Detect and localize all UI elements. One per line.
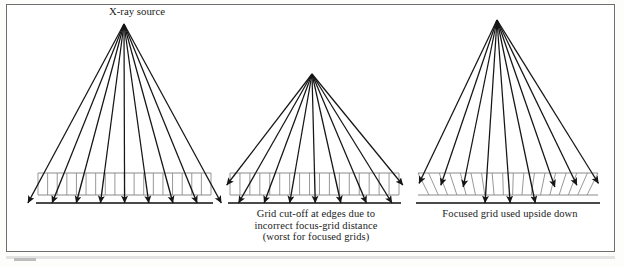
- xray-beam: [84, 24, 124, 173]
- caption-mid-line: Grid cut-off at edges due to: [226, 208, 406, 220]
- grid-septum-inverted: [578, 173, 588, 195]
- xray-beam: [497, 20, 571, 173]
- xray-ray-arrow: [28, 173, 44, 203]
- grid-septum-inverted: [587, 173, 598, 195]
- xray-ray-arrow: [205, 173, 221, 203]
- caption-focused-upside-down: Focused grid used upside down: [412, 208, 608, 220]
- grid-septum-inverted: [450, 173, 457, 195]
- xray-ray-arrow: [354, 173, 367, 203]
- xray-beam: [275, 74, 312, 173]
- figure-canvas: X-ray source Grid cut-off at edges due t…: [0, 0, 624, 267]
- grid-septum-inverted: [559, 173, 566, 195]
- grid-septum-inverted: [418, 173, 429, 195]
- xray-beam: [64, 24, 124, 173]
- grid-septum-inverted: [482, 173, 485, 195]
- xray-ray-arrow: [393, 173, 403, 185]
- xray-ray-arrow: [485, 173, 487, 203]
- xray-ray-arrow: [315, 173, 316, 203]
- xray-beam: [312, 74, 373, 173]
- xray-beam: [497, 20, 508, 173]
- xray-ray-arrow: [334, 173, 341, 203]
- grid-septum-inverted: [503, 173, 504, 195]
- xray-ray-arrow: [419, 173, 424, 183]
- xray-beam: [312, 74, 315, 173]
- xray-beam: [497, 20, 529, 173]
- grid-septum-inverted: [492, 173, 494, 195]
- xray-beam: [424, 20, 497, 173]
- caption-mid-line: (worst for focused grids): [226, 231, 406, 243]
- xray-beam: [104, 24, 124, 173]
- xray-beam: [124, 24, 205, 173]
- xray-ray-arrow: [529, 173, 535, 203]
- xray-beam: [312, 74, 334, 173]
- grid-septum-inverted: [471, 173, 476, 195]
- caption-mid-line: incorrect focus-grid distance: [226, 220, 406, 232]
- xray-beam: [124, 24, 165, 173]
- xray-beam: [312, 74, 354, 173]
- xray-beam: [124, 24, 185, 173]
- caption-right-line: Focused grid used upside down: [412, 208, 608, 220]
- xray-source-label: X-ray source: [62, 5, 212, 17]
- page-edge-mark: [14, 258, 36, 261]
- xray-beam: [497, 20, 592, 173]
- caption-grid-cutoff: Grid cut-off at edges due toincorrect fo…: [226, 208, 406, 243]
- xray-ray-arrow: [508, 173, 510, 203]
- xray-ray-arrow: [227, 173, 236, 185]
- xray-ray-arrow: [290, 173, 295, 203]
- xray-ray-arrow: [463, 173, 466, 187]
- xray-ray-arrow: [165, 173, 173, 203]
- xray-ray-arrow: [239, 173, 256, 203]
- xray-ray-arrow: [100, 173, 104, 203]
- xray-beam: [312, 74, 393, 173]
- grid-septum-inverted: [429, 173, 439, 195]
- xray-beam: [124, 24, 125, 173]
- diagram-geometry: [28, 20, 600, 203]
- xray-ray-arrow: [52, 173, 64, 203]
- grid-septum-inverted: [541, 173, 546, 195]
- grid-septum-inverted: [513, 173, 514, 195]
- xray-beam: [497, 20, 550, 173]
- xray-beam: [44, 24, 124, 173]
- xray-ray-arrow: [185, 173, 197, 203]
- page-edge-band: [6, 256, 615, 259]
- xray-ray-arrow: [76, 173, 84, 203]
- xray-beam: [124, 24, 145, 173]
- xray-ray-arrow: [145, 173, 149, 203]
- xray-beam: [236, 74, 312, 173]
- grid-septum-inverted: [522, 173, 524, 195]
